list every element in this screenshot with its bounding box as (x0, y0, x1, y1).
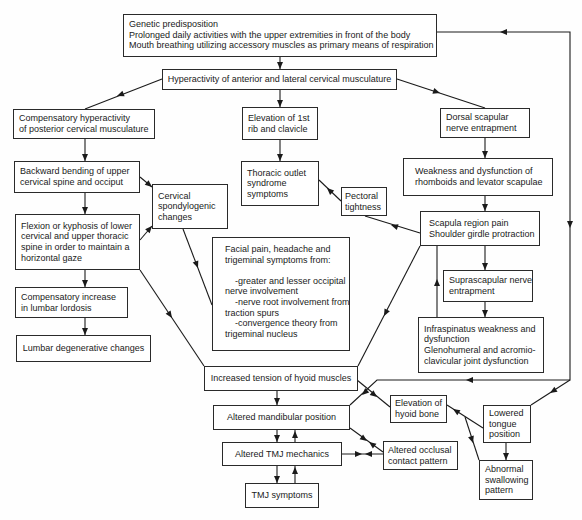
flexion-kyphosis-text: Flexion or kyphosis of lower cervical an… (21, 221, 132, 263)
lumbar-lordosis-text: Compensatory increase in lumbar lordosis (21, 292, 116, 313)
facial-pain-text: Facial pain, headache and trigeminal sym… (225, 244, 350, 339)
rhomboid-weakness-box: Weakness and dysfunction of rhomboids an… (403, 158, 553, 196)
anterior-hyperactivity-box: Hyperactivity of anterior and lateral ce… (162, 69, 397, 90)
posterior-hyperactivity-text: Compensatory hyperactivity of posterior … (19, 113, 149, 134)
lowered-tongue-text: Lowered tongue position (489, 408, 524, 440)
dorsal-scapular-text: Dorsal scapular nerve entrapment (446, 112, 517, 133)
hyoid-tension-box: Increased tension of hyoid muscles (204, 366, 358, 391)
tmj-mechanics-text: Altered TMJ mechanics (235, 449, 329, 460)
occlusal-pattern-text: Altered occlusal contact pattern (388, 445, 452, 466)
infraspinatus-box: Infraspinatus weakness and dysfunction G… (418, 317, 544, 373)
flowchart-canvas: Genetic predisposition Prolonged daily a… (0, 0, 582, 520)
scapula-pain-text: Scapula region pain Shoulder girdle prot… (429, 218, 535, 239)
tmj-symptoms-box: TMJ symptoms (245, 483, 319, 508)
lumbar-degenerative-box: Lumbar degenerative changes (16, 335, 151, 362)
lumbar-lordosis-box: Compensatory increase in lumbar lordosis (15, 287, 128, 318)
mandibular-position-text: Altered mandibular position (227, 412, 336, 423)
lowered-tongue-box: Lowered tongue position (483, 405, 531, 443)
root-causes-box: Genetic predisposition Prolonged daily a… (123, 14, 437, 57)
tmj-symptoms-text: TMJ symptoms (251, 490, 312, 501)
abnormal-swallowing-text: Abnormal swallowing pattern (485, 464, 529, 496)
pectoral-tightness-box: Pectoral tightness (341, 187, 387, 216)
suprascapular-box: Suprascapular nerve entrapment (443, 270, 533, 302)
infraspinatus-text: Infraspinatus weakness and dysfunction G… (424, 324, 536, 366)
scapula-pain-box: Scapula region pain Shoulder girdle prot… (420, 211, 540, 246)
cervical-spondylogenic-box: Cervical spondylogenic changes (152, 184, 228, 229)
flexion-kyphosis-box: Flexion or kyphosis of lower cervical an… (15, 214, 140, 270)
cervical-spondylogenic-text: Cervical spondylogenic changes (158, 191, 216, 223)
abnormal-swallowing-box: Abnormal swallowing pattern (479, 460, 533, 500)
rib-elevation-text: Elevation of 1st rib and clavicle (248, 113, 310, 134)
root-causes-text: Genetic predisposition Prolonged daily a… (129, 19, 434, 51)
facial-pain-box: Facial pain, headache and trigeminal sym… (212, 237, 350, 351)
rhomboid-weakness-text: Weakness and dysfunction of rhomboids an… (415, 166, 543, 187)
posterior-hyperactivity-box: Compensatory hyperactivity of posterior … (13, 109, 155, 139)
occlusal-pattern-box: Altered occlusal contact pattern (383, 441, 458, 470)
lumbar-degenerative-text: Lumbar degenerative changes (23, 343, 145, 354)
backward-bending-text: Backward bending of upper cervical spine… (20, 166, 130, 187)
suprascapular-text: Suprascapular nerve entrapment (449, 275, 532, 296)
backward-bending-box: Backward bending of upper cervical spine… (14, 161, 140, 193)
dorsal-scapular-box: Dorsal scapular nerve entrapment (440, 108, 530, 138)
hyoid-elevation-text: Elevation of hyoid bone (395, 398, 442, 419)
tmj-mechanics-box: Altered TMJ mechanics (222, 442, 342, 466)
mandibular-position-box: Altered mandibular position (213, 405, 350, 430)
hyoid-tension-text: Increased tension of hyoid muscles (211, 373, 352, 384)
thoracic-outlet-box: Thoracic outlet syndrome symptoms (241, 161, 319, 206)
rib-elevation-box: Elevation of 1st rib and clavicle (242, 107, 318, 140)
anterior-hyperactivity-text: Hyperactivity of anterior and lateral ce… (168, 74, 392, 85)
pectoral-tightness-text: Pectoral tightness (345, 191, 381, 212)
hyoid-elevation-box: Elevation of hyoid bone (390, 395, 447, 423)
thoracic-outlet-text: Thoracic outlet syndrome symptoms (247, 168, 306, 200)
